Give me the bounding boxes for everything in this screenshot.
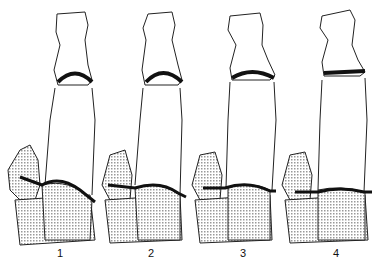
diagram-canvas	[0, 0, 378, 267]
panel-2-drawing	[102, 12, 186, 243]
panel-label-4: 4	[333, 247, 339, 259]
panel-4-drawing	[282, 10, 372, 243]
panel-label-2: 2	[148, 247, 154, 259]
panel-label-1: 1	[57, 247, 63, 259]
panel-label-3: 3	[240, 247, 246, 259]
panel-3-drawing	[192, 13, 276, 243]
panel-1-drawing	[8, 12, 95, 245]
